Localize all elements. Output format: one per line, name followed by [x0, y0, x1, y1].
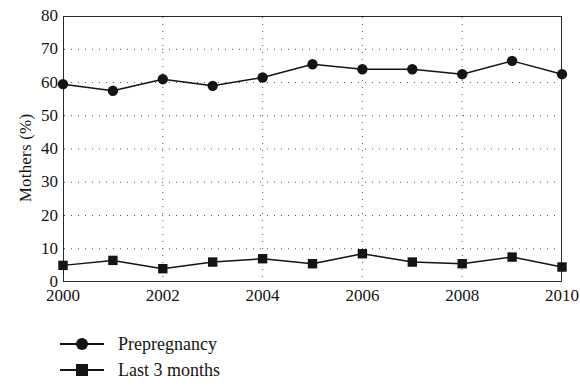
y-tick-label: 20 [24, 207, 58, 224]
plot-area [63, 16, 562, 282]
square-marker-icon [58, 360, 106, 380]
legend-item-label: Prepregnancy [118, 334, 217, 354]
legend-item-prepregnancy[interactable]: Prepregnancy [58, 331, 388, 357]
x-tick-label: 2006 [327, 287, 397, 304]
x-tick-label: 2004 [228, 287, 298, 304]
legend-item-label: Last 3 months [118, 360, 220, 380]
circle-marker-icon [58, 334, 106, 354]
y-tick-label: 10 [24, 240, 58, 257]
x-tick-label: 2002 [128, 287, 198, 304]
x-tick-label: 2008 [427, 287, 497, 304]
x-axis-tick-labels: 200020022004200620082010 [0, 287, 580, 311]
y-tick-label: 70 [24, 40, 58, 57]
x-tick-label: 2010 [527, 287, 580, 304]
x-tick-label: 2000 [28, 287, 98, 304]
y-tick-label: 60 [24, 74, 58, 91]
y-tick-label: 40 [24, 140, 58, 157]
chart-figure: Mothers (%) 01020304050607080 2000200220… [0, 0, 580, 392]
legend-item-last-3-months[interactable]: Last 3 months [58, 357, 388, 383]
y-tick-label: 30 [24, 173, 58, 190]
y-tick-label: 50 [24, 107, 58, 124]
chart-legend: Prepregnancy Last 3 months [58, 331, 388, 383]
y-axis-tick-labels: 01020304050607080 [18, 0, 58, 392]
y-tick-label: 80 [24, 7, 58, 24]
